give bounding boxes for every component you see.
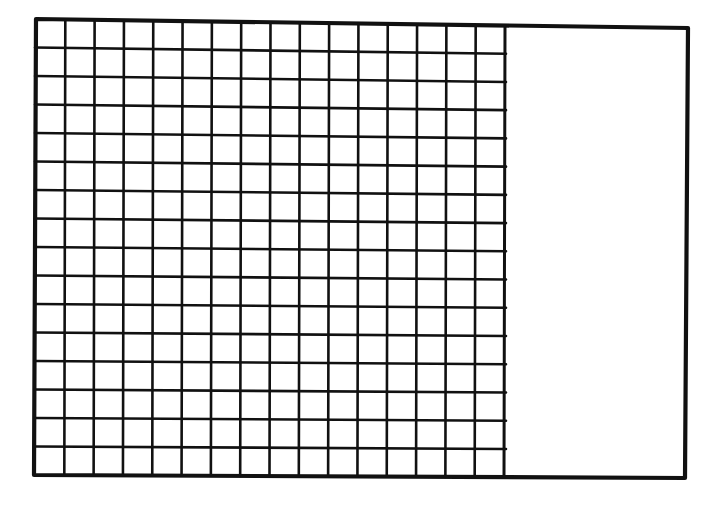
- empty-region: [505, 25, 688, 478]
- grid-diagram: [0, 0, 718, 505]
- empty-region-area: [505, 25, 688, 478]
